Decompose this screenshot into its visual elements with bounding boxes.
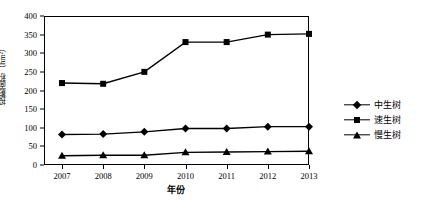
plot-area [44,16,309,165]
x-tick-mark [186,165,187,169]
chart-legend: 中生树速生树慢生树 [344,97,430,142]
legend-label: 慢生树 [374,130,401,140]
x-tick-label: 2007 [54,172,71,181]
x-tick-label: 2013 [301,172,318,181]
legend-label: 中生树 [374,100,401,110]
y-tick-label: 50 [29,142,38,151]
legend-marker [354,117,360,123]
y-tick-label: 300 [24,49,37,58]
x-tick-label: 2011 [218,172,235,181]
legend-marker [353,131,361,138]
x-tick-label: 2012 [259,172,276,181]
y-tick-label: 350 [24,30,37,39]
x-tick-mark [227,165,228,169]
y-tick-label: 0 [33,161,37,170]
y-tick-label: 100 [24,124,37,133]
x-tick-mark [103,165,104,169]
x-tick-label: 2010 [177,172,194,181]
x-tick-mark [62,165,63,169]
x-tick-mark [268,165,269,169]
x-axis-title: 年份 [167,185,185,195]
legend-item-0[interactable]: 中生树 [344,97,430,112]
legend-item-1[interactable]: 速生树 [344,112,430,127]
x-tick-label: 2008 [95,172,112,181]
y-tick-label: 150 [24,105,37,114]
diamond-marker [344,99,370,111]
legend-item-2[interactable]: 慢生树 [344,127,430,142]
legend-label: 速生树 [374,115,401,125]
x-tick-mark [144,165,145,169]
triangle-marker [344,129,370,141]
legend-marker [353,100,361,108]
x-tick-mark [309,165,310,169]
x-tick-label: 2009 [136,172,153,181]
y-tick-label: 400 [24,12,37,21]
line-chart-figure: 投影面积（hm²） 400350300250200150100500 20072… [0,0,432,219]
x-axis: 2007200820092010201120122013 [44,165,309,187]
square-marker [344,114,370,126]
y-tick-label: 250 [24,68,37,77]
y-tick-label: 200 [24,86,37,95]
y-axis: 400350300250200150100500 [0,0,44,166]
